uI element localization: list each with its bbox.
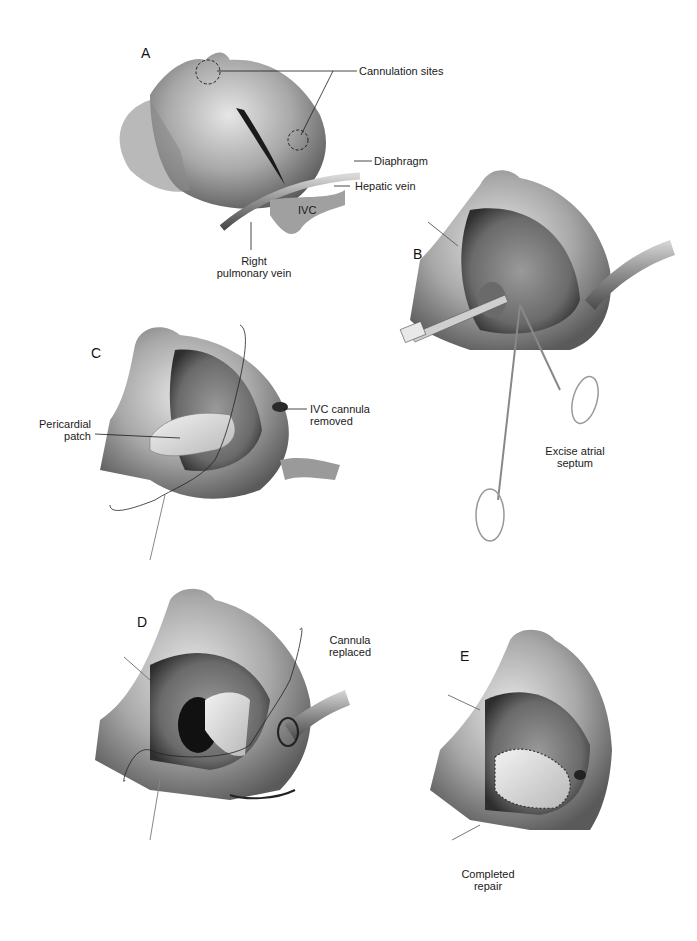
- panel-e: E Completed repair: [0, 0, 697, 941]
- panel-e-illustration: [0, 0, 697, 941]
- completed-repair-label: Completed repair: [458, 868, 518, 892]
- panel-e-letter: E: [460, 648, 469, 664]
